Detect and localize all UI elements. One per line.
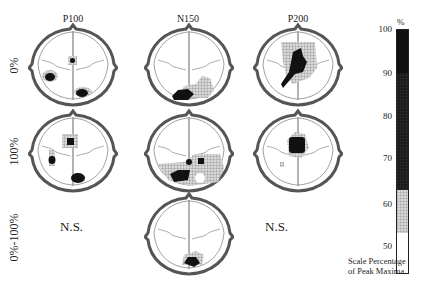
colorbar-tick-80: 80 xyxy=(368,111,392,121)
colorbar-tick-70: 70 xyxy=(368,153,392,163)
brain-map-p100-0pct xyxy=(28,22,118,108)
colorbar-tick-60: 60 xyxy=(368,199,392,209)
brain-map-n150-0pct xyxy=(144,22,234,108)
colorbar-unit: % xyxy=(397,17,405,27)
colorbar xyxy=(396,29,409,274)
brain-map-p100-100pct xyxy=(28,108,118,194)
colorbar-tick-50: 50 xyxy=(368,241,392,251)
ns-label-p200: N.S. xyxy=(265,219,288,235)
brain-map-p200-0pct xyxy=(253,22,343,108)
ns-label-p100: N.S. xyxy=(60,219,83,235)
row-label-100pct: 100% xyxy=(7,112,22,192)
brain-map-n150-100pct xyxy=(144,108,234,194)
colorbar-tick-90: 90 xyxy=(368,68,392,78)
brain-map-n150-0-100pct xyxy=(144,191,234,277)
colorbar-tick-100: 100 xyxy=(368,24,392,34)
colorbar-caption: Scale Percentage of Peak Maxima xyxy=(348,256,423,276)
brain-map-p200-100pct xyxy=(253,108,343,194)
colorbar-caption-line1: Scale Percentage xyxy=(348,256,423,266)
row-label-0-100pct: 0%-100% xyxy=(7,198,22,278)
colorbar-caption-line2: of Peak Maxima xyxy=(348,266,423,276)
row-label-0pct: 0% xyxy=(7,26,22,106)
